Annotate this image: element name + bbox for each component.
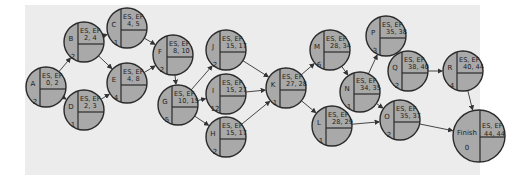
- edge-N-O: [376, 103, 382, 107]
- activity-label: B: [69, 35, 74, 43]
- activity-label: L: [317, 119, 321, 127]
- activity-label: D: [68, 103, 73, 111]
- duration-label: 4: [114, 94, 119, 102]
- es-ef-values: 34, 35: [360, 84, 381, 92]
- es-ef-values: 28, 34: [330, 42, 351, 50]
- es-ef-values: 35, 37: [400, 112, 421, 120]
- duration-label: 2: [213, 148, 217, 156]
- activity-label: I: [212, 87, 214, 95]
- duration-label: 0: [465, 144, 469, 152]
- activity-label: E: [112, 76, 116, 84]
- activity-label: F: [158, 48, 162, 56]
- node-O: O2ES, EF35, 37: [380, 100, 421, 140]
- duration-label: 1: [71, 121, 75, 129]
- node-R: R4ES, EF40, 44: [443, 51, 484, 91]
- es-ef-values: 4, 8: [127, 75, 140, 83]
- edge-C-F: [144, 38, 155, 44]
- activity-label: G: [162, 98, 167, 106]
- edge-M-N: [342, 66, 348, 75]
- edge-F-G: [175, 75, 176, 84]
- node-K: K1ES, EF27, 28: [266, 68, 307, 108]
- es-ef-values: 38, 40: [408, 63, 429, 71]
- es-ef-values: 4, 5: [127, 20, 140, 28]
- duration-label: 2: [395, 82, 399, 90]
- edge-I-K: [246, 90, 265, 92]
- es-ef-header: ES, EF: [482, 122, 503, 130]
- es-ef-values: 15, 17: [226, 129, 247, 137]
- activity-label: Q: [392, 64, 398, 72]
- duration-label: 5: [165, 116, 169, 124]
- duration-label: 1: [319, 137, 323, 145]
- es-ef-values: 27, 28: [286, 80, 307, 88]
- es-ef-values: 35, 38: [386, 28, 407, 36]
- es-ef-values: 40, 44: [463, 63, 484, 71]
- activity-label: A: [31, 80, 36, 88]
- activity-label: Finish: [457, 129, 477, 137]
- node-L: L1ES, EF28, 29: [312, 106, 353, 146]
- node-G: G5ES, EF10, 15: [158, 85, 199, 125]
- duration-label: 3: [373, 47, 377, 55]
- edge-D-E: [101, 94, 109, 99]
- es-ef-values: 0, 2: [46, 79, 59, 87]
- node-I: I12ES, EF15, 27: [206, 74, 247, 114]
- node-N: N1ES, EF34, 35: [340, 72, 381, 112]
- duration-label: 1: [347, 103, 351, 111]
- node-Finish: Finish0ES, EF44, 44: [453, 110, 505, 162]
- edge-B-E: [98, 56, 111, 69]
- node-C: C1ES, EF4, 5: [107, 8, 147, 48]
- edge-J-K: [243, 61, 268, 77]
- activity-label: R: [448, 64, 453, 72]
- activity-label: M: [314, 43, 320, 51]
- activity-label: O: [384, 113, 390, 121]
- activity-label: N: [344, 85, 349, 93]
- es-ef-values: 10, 15: [178, 97, 199, 105]
- duration-label: 1: [273, 99, 277, 107]
- duration-label: 1: [114, 39, 118, 47]
- activity-label: K: [271, 81, 276, 89]
- es-ef-values: 2, 4: [84, 34, 97, 42]
- duration-label: 2: [213, 61, 217, 69]
- node-P: P3ES, EF35, 38: [366, 16, 407, 56]
- activity-label: P: [371, 29, 375, 37]
- edge-L-O: [352, 122, 379, 124]
- node-B: B2ES, EF2, 4: [64, 22, 104, 62]
- edge-G-H: [195, 116, 209, 125]
- edge-A-B: [59, 58, 71, 72]
- node-F: F2ES, EF8, 10: [153, 35, 193, 75]
- node-Q: Q2ES, EF38, 40: [388, 51, 429, 91]
- duration-label: 12: [211, 105, 220, 113]
- duration-label: 2: [71, 53, 75, 61]
- edge-K-L: [301, 101, 315, 113]
- node-J: J2ES, EF15, 17: [206, 30, 247, 70]
- es-ef-values: 2, 3: [84, 102, 97, 110]
- edge-N-P: [368, 55, 377, 74]
- edge-K-M: [301, 64, 314, 75]
- activity-label: J: [211, 43, 214, 51]
- edge-O-Finish: [420, 124, 453, 131]
- activity-label: C: [112, 21, 117, 29]
- activity-label: H: [210, 130, 215, 138]
- edge-R-Finish: [468, 90, 473, 109]
- network-diagram: A2ES, EF0, 2B2ES, EF2, 4C1ES, EF4, 5D1ES…: [0, 0, 529, 181]
- es-ef-values: 15, 17: [226, 42, 247, 50]
- duration-label: 6: [317, 61, 322, 69]
- duration-label: 2: [387, 131, 391, 139]
- node-M: M6ES, EF28, 34: [310, 30, 351, 70]
- es-ef-values: 28, 29: [332, 118, 353, 126]
- edge-H-K: [241, 101, 269, 124]
- node-H: H2ES, EF15, 17: [206, 117, 247, 157]
- node-E: E4ES, EF4, 8: [107, 63, 147, 103]
- edge-E-F: [144, 66, 155, 73]
- duration-label: 4: [450, 82, 455, 90]
- duration-label: 2: [33, 98, 37, 106]
- es-ef-values: 44, 44: [484, 130, 505, 138]
- es-ef-values: 8, 10: [173, 47, 190, 55]
- node-D: D1ES, EF2, 3: [64, 90, 104, 130]
- node-A: A2ES, EF0, 2: [26, 67, 66, 107]
- es-ef-values: 15, 27: [226, 86, 247, 94]
- duration-label: 2: [160, 66, 164, 74]
